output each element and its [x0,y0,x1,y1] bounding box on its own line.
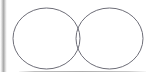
bottom-divider-line [19,71,146,72]
drawing-canvas[interactable] [0,0,153,81]
right-ellipse[interactable] [76,8,143,69]
app-root [0,0,153,81]
left-ellipse[interactable] [13,8,80,69]
venn-diagram [0,0,153,81]
